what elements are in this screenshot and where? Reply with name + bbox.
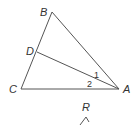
angle-2-label: 2 (87, 79, 92, 89)
label-r: R (82, 101, 90, 113)
segment-ad (37, 52, 119, 89)
label-d: D (26, 45, 34, 57)
angle-1-label: 1 (94, 70, 99, 80)
label-b: B (40, 6, 47, 18)
label-c: C (9, 83, 17, 95)
triangle-diagram: B D C A R 1 2 (0, 0, 136, 125)
segment-ab (52, 12, 119, 89)
label-a: A (122, 83, 130, 95)
partial-figure-r (80, 117, 89, 125)
